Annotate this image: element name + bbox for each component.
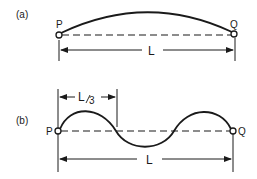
panel-a-node-p-icon [56,32,62,38]
panel-b-point-p-label: P [46,126,53,137]
panel-b: (b) P Q L 3 L [16,89,246,172]
panel-b-wave [60,111,231,147]
panel-a: (a) P Q L [16,9,238,61]
panel-b-node-q-icon [230,128,236,134]
panel-a-label: (a) [16,9,28,20]
panel-b-node-p-icon [55,128,61,134]
panel-b-point-q-label: Q [238,126,246,137]
panel-b-third-label-3: 3 [89,95,95,106]
panel-b-third-label-l: L [78,90,85,104]
panel-a-point-p-label: P [56,19,63,30]
panel-a-node-q-icon [231,31,237,37]
panel-a-wave-arc [61,12,232,33]
panel-b-length-label: L [146,153,153,167]
standing-wave-diagram: (a) P Q L (b) P Q L 3 L [0,0,257,179]
panel-b-label: (b) [16,115,28,126]
panel-a-point-q-label: Q [230,19,238,30]
panel-a-length-label: L [148,44,155,58]
